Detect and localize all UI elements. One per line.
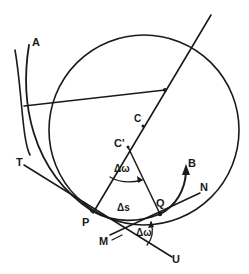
tangent-M-N	[110, 193, 200, 235]
label-T: T	[16, 156, 23, 168]
label-P: P	[82, 216, 89, 228]
label-U: U	[172, 253, 180, 265]
curvature-diagram: A C C' T P Q B N M U Δω Δs Δω	[0, 0, 249, 274]
large-circle	[49, 35, 239, 225]
label-M: M	[99, 235, 108, 247]
upper-center-dot	[163, 88, 167, 92]
point-Q-dot	[158, 212, 162, 216]
label-B: B	[188, 157, 196, 169]
label-C-prime: C'	[114, 137, 125, 149]
chord-line	[24, 90, 165, 106]
radial-line	[93, 15, 211, 213]
tangent-T-U	[24, 165, 172, 257]
point-P-dot	[90, 209, 94, 213]
M-pointer	[112, 235, 122, 240]
point-C-dot	[142, 125, 145, 128]
label-A: A	[32, 36, 40, 48]
curve-A	[26, 45, 160, 220]
label-delta-s: Δs	[117, 202, 130, 213]
label-delta-omega-bottom: Δω	[136, 227, 152, 238]
label-N: N	[200, 181, 208, 193]
label-delta-omega-top: Δω	[114, 163, 130, 174]
label-Q: Q	[156, 197, 165, 209]
label-C: C	[134, 113, 141, 124]
